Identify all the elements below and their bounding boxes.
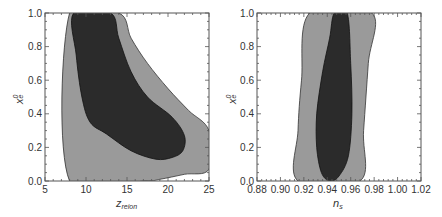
right-x-tick-labels: 0.880.900.920.940.960.981.001.02 bbox=[247, 184, 431, 195]
x-tick-label: 1.02 bbox=[411, 184, 431, 195]
y-tick-label: 0.0 bbox=[28, 176, 42, 187]
right-x-axis-label: ns bbox=[333, 197, 343, 210]
y-tick-label: 1.0 bbox=[28, 8, 42, 19]
left-y-axis-label: x0e bbox=[12, 95, 25, 106]
left-y-tick-labels: 0.00.20.40.60.81.0 bbox=[28, 8, 42, 187]
x-tick-label: 0.94 bbox=[318, 184, 338, 195]
y-tick-label: 0.8 bbox=[240, 41, 254, 52]
x-tick-label: 15 bbox=[121, 184, 133, 195]
left-x-axis-label: zreion bbox=[115, 197, 137, 210]
y-tick-label: 0.4 bbox=[240, 108, 254, 119]
x-tick-label: 1.00 bbox=[388, 184, 408, 195]
y-tick-label: 1.0 bbox=[240, 8, 254, 19]
y-tick-label: 0.4 bbox=[28, 108, 42, 119]
x-tick-label: 0.92 bbox=[294, 184, 314, 195]
y-tick-label: 0.8 bbox=[28, 41, 42, 52]
x-tick-label: 0.96 bbox=[341, 184, 361, 195]
y-tick-label: 0.6 bbox=[240, 75, 254, 86]
y-tick-label: 0.6 bbox=[28, 75, 42, 86]
y-tick-label: 0.0 bbox=[240, 176, 254, 187]
x-tick-label: 10 bbox=[80, 184, 92, 195]
x-tick-label: 0.98 bbox=[364, 184, 384, 195]
figure: 510152025 0.00.20.40.60.81.0 zreion x0e … bbox=[0, 0, 442, 217]
right-panel: 0.880.900.920.940.960.981.001.02 0.00.20… bbox=[225, 6, 431, 210]
right-y-axis-label: x0e bbox=[225, 95, 238, 106]
y-tick-label: 0.2 bbox=[240, 142, 254, 153]
y-tick-label: 0.2 bbox=[28, 142, 42, 153]
left-x-tick-labels: 510152025 bbox=[42, 184, 215, 195]
x-tick-label: 25 bbox=[203, 184, 215, 195]
right-y-tick-labels: 0.00.20.40.60.81.0 bbox=[240, 8, 254, 187]
x-tick-label: 0.90 bbox=[271, 184, 291, 195]
left-panel: 510152025 0.00.20.40.60.81.0 zreion x0e bbox=[12, 0, 215, 210]
x-tick-label: 5 bbox=[42, 184, 48, 195]
x-tick-label: 20 bbox=[162, 184, 174, 195]
